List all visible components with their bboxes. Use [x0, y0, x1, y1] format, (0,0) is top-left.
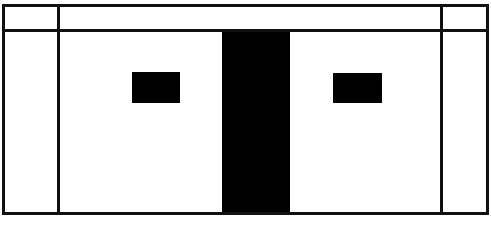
center-solid-column: [222, 31, 290, 213]
right-solid-block: [333, 73, 382, 103]
elevation-line-drawing: [0, 0, 491, 228]
left-solid-block: [132, 72, 180, 103]
drawing-canvas: [0, 0, 491, 228]
